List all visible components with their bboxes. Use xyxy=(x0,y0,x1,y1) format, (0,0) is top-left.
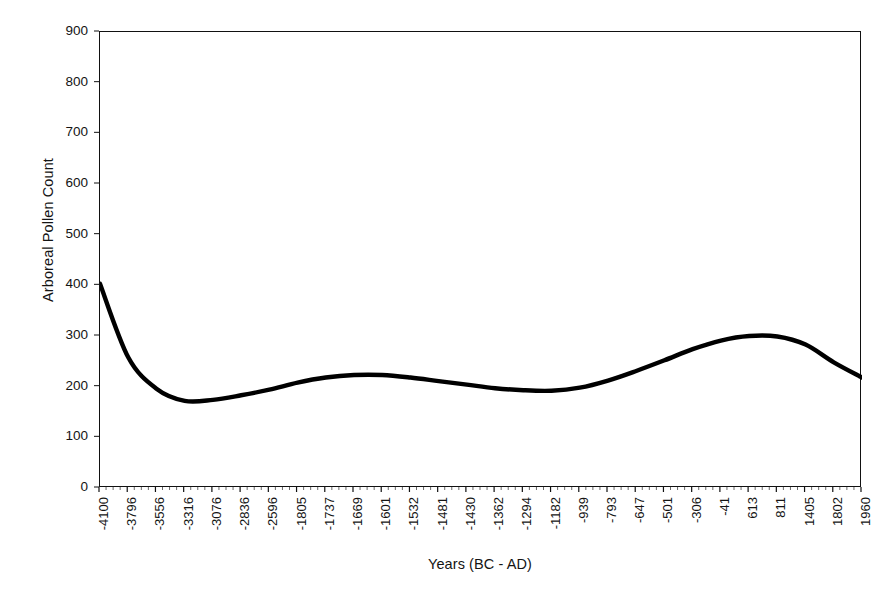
x-tick-label: -1805 xyxy=(295,497,309,553)
x-tick-label: -1669 xyxy=(351,497,365,553)
x-tick-label: 1960 xyxy=(859,497,873,553)
x-tick-label: -1182 xyxy=(549,497,563,553)
x-tick-label: -647 xyxy=(633,497,647,553)
x-tick-label: -306 xyxy=(690,497,704,553)
x-tick-label: 1405 xyxy=(803,497,817,553)
x-tick-label: 613 xyxy=(746,497,760,553)
x-tick-label: -4100 xyxy=(97,497,111,553)
x-tick-label: -2836 xyxy=(238,497,252,553)
x-tick-label: -3556 xyxy=(153,497,167,553)
x-tick-label: -1601 xyxy=(379,497,393,553)
x-tick-label: -1362 xyxy=(492,497,506,553)
x-tick-label: 1802 xyxy=(831,497,845,553)
x-tick-label: -939 xyxy=(577,497,591,553)
x-tick-label: -41 xyxy=(718,497,732,553)
x-tick-label: -1532 xyxy=(407,497,421,553)
x-tick-label: -1294 xyxy=(520,497,534,553)
x-tick-label: 811 xyxy=(774,497,788,553)
x-tick-label: -2596 xyxy=(266,497,280,553)
x-tick-label: -501 xyxy=(661,497,675,553)
x-axis-tick-labels: -4100-3796-3556-3316-3076-2836-2596-1805… xyxy=(99,492,861,548)
x-tick-label: -3796 xyxy=(125,497,139,553)
x-axis-title: Years (BC - AD) xyxy=(99,556,861,572)
pollen-count-line-chart: Arboreal Pollen Count 900800700600500400… xyxy=(0,0,885,595)
x-tick-label: -1481 xyxy=(436,497,450,553)
x-tick-label: -1430 xyxy=(464,497,478,553)
x-tick-label: -793 xyxy=(605,497,619,553)
x-tick-label: -1737 xyxy=(323,497,337,553)
x-tick-label: -3076 xyxy=(210,497,224,553)
x-tick-label: -3316 xyxy=(182,497,196,553)
